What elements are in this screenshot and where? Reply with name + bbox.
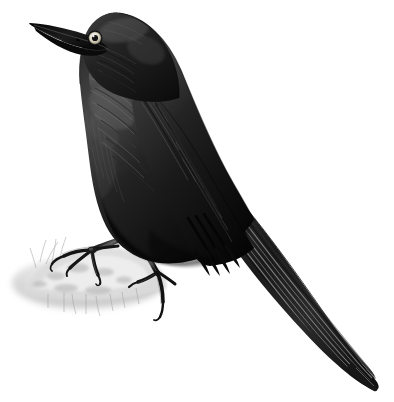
eye — [88, 31, 103, 46]
bird-illustration — [0, 0, 394, 402]
illustration-canvas: Carib Grackle perched, facing left, long… — [0, 0, 394, 402]
